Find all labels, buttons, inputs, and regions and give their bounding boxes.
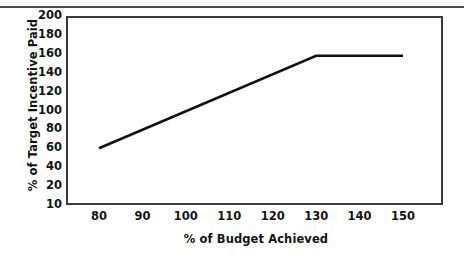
- x-tick-label: 90: [120, 211, 164, 223]
- incentive-curve-line: [99, 56, 403, 149]
- x-tick-label: 130: [294, 211, 338, 223]
- x-tick-label: 140: [338, 211, 382, 223]
- chart-figure: % of Target Incentive Paid % of Budget A…: [0, 0, 464, 262]
- x-axis-tick-labels: 8090100110120130140150: [0, 211, 464, 231]
- x-tick-label: 120: [251, 211, 295, 223]
- x-tick-label: 100: [164, 211, 208, 223]
- x-tick-label: 150: [381, 211, 425, 223]
- x-tick-label: 80: [77, 211, 121, 223]
- x-tick-label: 110: [207, 211, 251, 223]
